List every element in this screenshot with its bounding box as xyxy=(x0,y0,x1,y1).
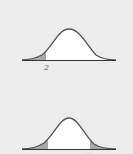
normal-curve-left-tail: 2 xyxy=(0,0,133,77)
normal-curve-two-tails: · · xyxy=(0,77,133,154)
bell-curve-graphic xyxy=(0,77,133,154)
bell-curve-graphic xyxy=(0,0,133,77)
critical-value-label: · · xyxy=(84,150,90,154)
critical-value-label: 2 xyxy=(44,63,49,72)
